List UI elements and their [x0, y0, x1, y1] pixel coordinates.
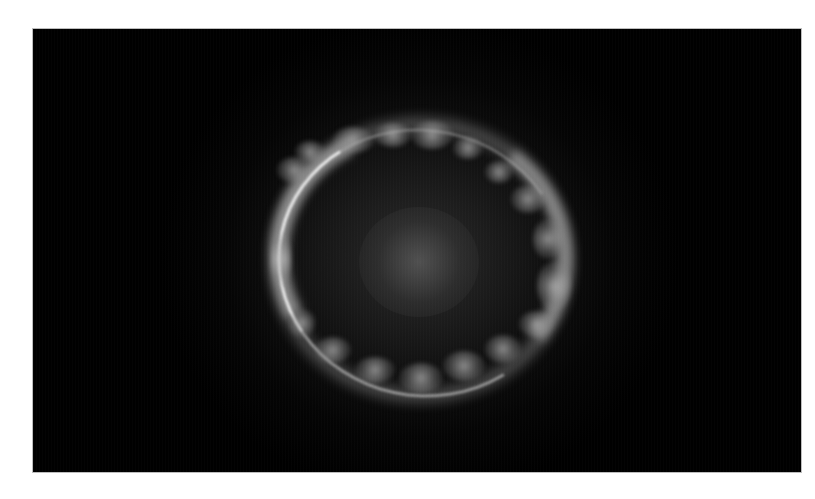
ring-clump — [333, 127, 373, 153]
image-frame — [32, 28, 802, 473]
ring-clump — [485, 161, 513, 183]
ring-clump — [519, 311, 553, 337]
ring-clump — [315, 337, 351, 363]
ring-clump — [355, 357, 395, 383]
ring-clump — [289, 309, 315, 337]
ring-clump — [411, 121, 453, 149]
ring-clump — [511, 185, 545, 213]
ring-clump — [453, 137, 483, 159]
ring-clump — [537, 261, 571, 311]
ring-clump — [399, 363, 443, 393]
ring-clump — [271, 229, 291, 289]
ring-clump — [443, 351, 485, 381]
ring-clump — [295, 141, 325, 163]
ring-clump — [485, 335, 521, 363]
ring-clump — [375, 123, 411, 147]
ring-clump — [533, 219, 563, 259]
